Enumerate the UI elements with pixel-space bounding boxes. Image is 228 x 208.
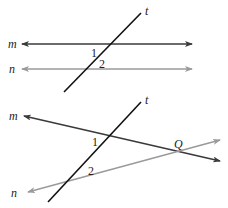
label-t: t (145, 4, 149, 18)
label-n: n (9, 62, 15, 76)
parallel-lines-figure: m n t 1 2 (8, 4, 192, 92)
angle-1-label: 1 (91, 46, 97, 60)
angle-1-label: 1 (92, 135, 98, 149)
diagram-canvas: m n t 1 2 m n t 1 2 Q (0, 0, 228, 208)
line-t (48, 102, 141, 202)
line-t (64, 13, 141, 92)
label-t: t (145, 93, 149, 107)
angle-2-label: 2 (88, 164, 94, 178)
angle-2-label: 2 (99, 57, 105, 71)
label-n: n (11, 186, 17, 200)
label-m: m (8, 37, 17, 51)
line-n (28, 140, 220, 192)
intersecting-lines-figure: m n t 1 2 Q (9, 93, 220, 202)
point-q-label: Q (174, 137, 183, 151)
label-m: m (9, 109, 18, 123)
